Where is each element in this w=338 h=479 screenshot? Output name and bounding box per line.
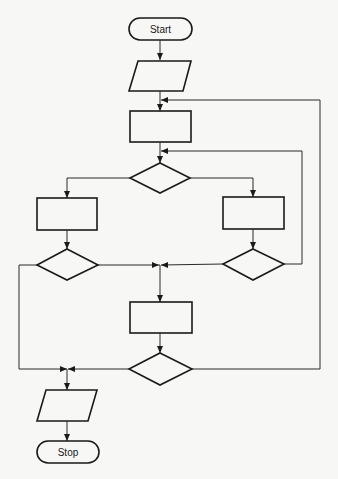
connector-decision1-right — [190, 178, 256, 197]
connector-start-input — [157, 40, 163, 60]
connector-junction-process2 — [157, 265, 163, 302]
flowchart-canvas: Start — [0, 0, 338, 479]
connector-output-stop — [64, 421, 70, 441]
connector-process2-decision2 — [157, 333, 163, 353]
connector-decision1-left — [64, 178, 130, 198]
decision-diamond-2 — [129, 353, 192, 385]
decision-diamond-left — [37, 249, 98, 280]
connector-decision2-junction — [68, 366, 129, 372]
connector-process1-decision1 — [157, 142, 163, 163]
start-label: Start — [150, 24, 171, 35]
stop-label: Stop — [58, 447, 79, 458]
process-box-right — [223, 197, 284, 229]
process-box-left — [37, 198, 97, 230]
connector-input-process1 — [157, 91, 163, 111]
connector-left-outer — [19, 265, 67, 372]
connector-left-process-decision — [64, 230, 70, 249]
connector-left-decision-junction — [98, 262, 160, 268]
process-box-1 — [130, 111, 191, 142]
output-parallelogram — [37, 390, 97, 421]
stop-terminal: Stop — [37, 441, 99, 463]
flowchart-svg: Start — [0, 0, 338, 479]
connector-junction-output — [64, 369, 70, 390]
connector-right-process-decision — [250, 229, 256, 249]
connector-right-decision-junction — [161, 262, 223, 268]
decision-diamond-1 — [130, 163, 190, 193]
process-box-2 — [130, 302, 192, 333]
start-terminal: Start — [129, 18, 192, 40]
input-parallelogram — [129, 61, 191, 91]
decision-diamond-right — [223, 249, 284, 280]
